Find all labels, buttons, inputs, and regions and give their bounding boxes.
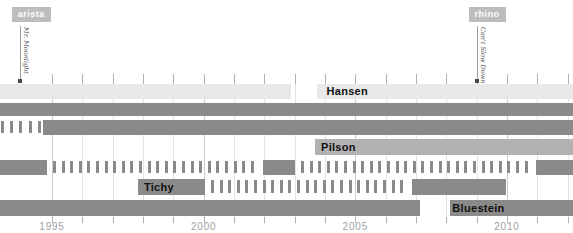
record-label-badge-rhino: rhino xyxy=(469,7,506,22)
annotation-marker-dot xyxy=(475,79,479,83)
song-title-label: Mr. Moonlight xyxy=(22,27,30,85)
timeline-chart: HansenPilsonTichyBluestein 1995200020052… xyxy=(0,0,573,233)
annotation-arista: arista Mr. Moonlight xyxy=(20,7,21,87)
annotation-rhino: rhino Can't Slow Down xyxy=(477,7,478,87)
annotation-line xyxy=(20,26,21,83)
annotation-marker-dot xyxy=(18,79,22,83)
record-label-badge-arista: arista xyxy=(12,7,51,22)
annotations-layer: arista Mr. Moonlight rhino Can't Slow Do… xyxy=(0,0,573,233)
annotation-line xyxy=(477,26,478,83)
song-title-label: Can't Slow Down xyxy=(479,27,487,85)
